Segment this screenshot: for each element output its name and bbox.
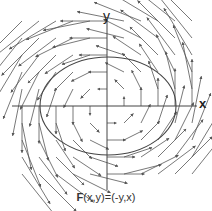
vector-arrow <box>90 174 127 183</box>
vector-arrow <box>141 121 160 140</box>
vector-arrow <box>132 70 141 89</box>
vector-field-plot <box>0 0 212 211</box>
vector-arrow <box>73 157 101 176</box>
vector-arrow <box>90 157 118 166</box>
vector-arrow <box>36 38 73 57</box>
vector-arrow <box>0 21 39 58</box>
vector-arrow <box>64 89 73 108</box>
vector-arrow <box>139 44 158 72</box>
vector-arrow <box>113 36 141 55</box>
vector-arrow <box>87 29 124 38</box>
vector-arrow <box>183 42 192 89</box>
vector-arrow <box>20 72 39 109</box>
vector-arrow <box>124 114 133 123</box>
vector-arrow <box>90 123 99 132</box>
vector-arrow <box>77 12 124 21</box>
vector-arrow <box>124 131 143 140</box>
vector-arrow <box>19 38 56 66</box>
vector-arrow <box>121 10 158 38</box>
vector-arrow <box>141 155 178 174</box>
vector-arrow <box>73 174 110 193</box>
vector-arrow <box>192 110 212 157</box>
vector-arrow <box>147 18 175 55</box>
vector-arrow <box>156 35 175 72</box>
vector-arrow <box>11 55 39 92</box>
vector-arrow <box>105 63 124 72</box>
vector-arrow <box>175 120 203 157</box>
vector-arrow <box>192 127 212 174</box>
vector-arrow <box>94 2 141 21</box>
vector-arrow <box>81 89 90 98</box>
x-axis-label: x <box>199 96 206 111</box>
vector-arrow <box>26 21 73 40</box>
vector-arrow <box>90 140 109 149</box>
vector-arrow <box>47 89 56 117</box>
vector-arrow <box>3 72 22 119</box>
vector-arrow <box>39 140 58 177</box>
vector-arrow <box>22 123 31 170</box>
vector-arrow <box>115 80 124 89</box>
caption-rest: (x,y)=(-y,x) <box>83 191 135 203</box>
vector-arrow <box>175 103 194 140</box>
vector-arrow <box>73 123 82 142</box>
vector-arrow <box>39 157 67 194</box>
vector-arrow <box>71 72 90 81</box>
vector-arrow <box>13 89 22 136</box>
vector-arrow <box>0 38 22 85</box>
vector-arrow <box>54 72 73 91</box>
vector-arrow <box>53 38 90 47</box>
vector-arrow <box>141 104 150 123</box>
vector-arrow <box>155 0 192 38</box>
vector-arrow <box>111 0 158 21</box>
y-axis-label: y <box>103 8 110 24</box>
vector-arrow <box>128 0 175 21</box>
vector-arrow <box>43 21 90 30</box>
vector-arrow <box>22 140 41 187</box>
vector-arrow <box>166 52 175 89</box>
vector-arrow <box>158 95 167 123</box>
vector-arrow <box>158 146 195 174</box>
vector-arrow <box>158 112 177 140</box>
vector-arrow <box>30 89 39 126</box>
vector-arrow <box>45 55 73 74</box>
vector-arrow <box>96 46 124 55</box>
field-caption: F(x,y)=(-y,x) <box>0 191 212 203</box>
vector-arrow <box>122 53 141 72</box>
vector-arrow <box>124 165 161 174</box>
vector-arrow <box>173 25 192 72</box>
